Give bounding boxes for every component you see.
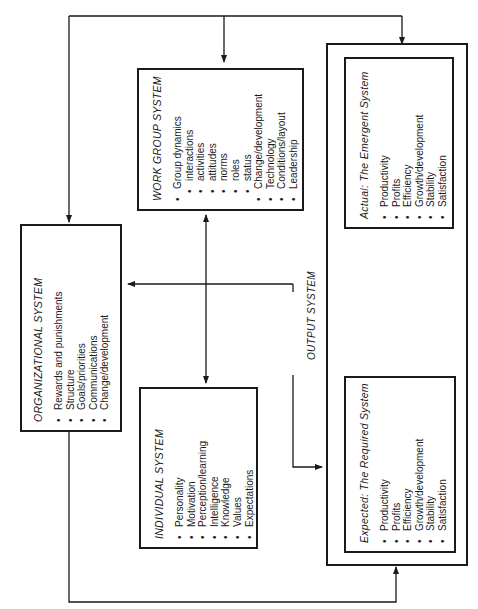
organizational-system-box: ORGANIZATIONAL SYSTEM Rewards and punish…	[20, 224, 122, 432]
list-subitem: activities	[195, 69, 207, 201]
list-item: Profits	[391, 388, 403, 543]
work-group-system-content: WORK GROUP SYSTEM Group dynamics interac…	[151, 69, 300, 201]
emergent-system-title: Actual: The Emergent System	[358, 69, 370, 219]
list-item: Knowledge	[220, 399, 232, 539]
list-item: Growth/development	[414, 388, 426, 543]
list-item: Change/development	[253, 69, 265, 201]
emergent-system-content: Actual: The Emergent System Productivity…	[358, 69, 449, 219]
list-item: Satisfaction	[437, 69, 449, 219]
list-item: Communications	[88, 236, 100, 422]
required-system-content: Expected: The Required System Productivi…	[358, 388, 449, 543]
list-subitem: norms	[218, 69, 230, 201]
list-item: Profits	[391, 69, 403, 219]
required-system-box: Expected: The Required System Productivi…	[344, 376, 456, 553]
list-item: Expectations	[244, 399, 256, 539]
list-item: Leadership	[288, 69, 300, 201]
work-group-system-title: WORK GROUP SYSTEM	[151, 69, 163, 201]
list-item: Stability	[425, 388, 437, 543]
emergent-system-box: Actual: The Emergent System Productivity…	[344, 57, 454, 229]
emergent-system-list: Productivity Profits Efficiency Growth/d…	[379, 69, 449, 219]
list-item: Stability	[425, 69, 437, 219]
list-subitem: attitudes	[207, 69, 219, 201]
output-system-label: OUTPUT SYSTEM	[306, 271, 317, 360]
work-group-system-box: WORK GROUP SYSTEM Group dynamics interac…	[137, 68, 304, 211]
list-subitem: roles	[230, 69, 242, 201]
individual-system-list: Personality Motivation Perception/learni…	[174, 399, 255, 539]
required-system-list: Productivity Profits Efficiency Growth/d…	[379, 388, 449, 543]
required-system-title: Expected: The Required System	[358, 388, 370, 543]
list-item: Satisfaction	[437, 388, 449, 543]
list-item: Personality	[174, 399, 186, 539]
list-item: Structure	[65, 236, 77, 422]
list-item: Conditions/layout	[276, 69, 288, 201]
list-item: Technology	[265, 69, 277, 201]
list-subitem: status	[242, 69, 254, 201]
list-item: Intelligence	[209, 399, 221, 539]
list-item: Efficiency	[402, 388, 414, 543]
individual-system-box: INDIVIDUAL SYSTEM Personality Motivation…	[139, 387, 258, 549]
list-item: Group dynamics	[172, 69, 184, 201]
work-group-system-list: Group dynamics interactions activities a…	[172, 69, 300, 201]
list-item: Goals/priorities	[76, 236, 88, 422]
list-subitem: interactions	[184, 69, 196, 201]
individual-system-content: INDIVIDUAL SYSTEM Personality Motivation…	[153, 399, 255, 539]
organizational-system-list: Rewards and punishments Structure Goals/…	[53, 236, 111, 422]
list-item: Motivation	[186, 399, 198, 539]
list-item: Growth/development	[414, 69, 426, 219]
organizational-system-content: ORGANIZATIONAL SYSTEM Rewards and punish…	[32, 236, 111, 422]
list-item: Efficiency	[402, 69, 414, 219]
list-item: Rewards and punishments	[53, 236, 65, 422]
list-item: Productivity	[379, 69, 391, 219]
list-item: Values	[232, 399, 244, 539]
individual-system-title: INDIVIDUAL SYSTEM	[153, 399, 165, 539]
organizational-system-title: ORGANIZATIONAL SYSTEM	[32, 236, 44, 422]
list-item: Perception/learning	[197, 399, 209, 539]
list-item: Productivity	[379, 388, 391, 543]
list-item: Change/development	[99, 236, 111, 422]
